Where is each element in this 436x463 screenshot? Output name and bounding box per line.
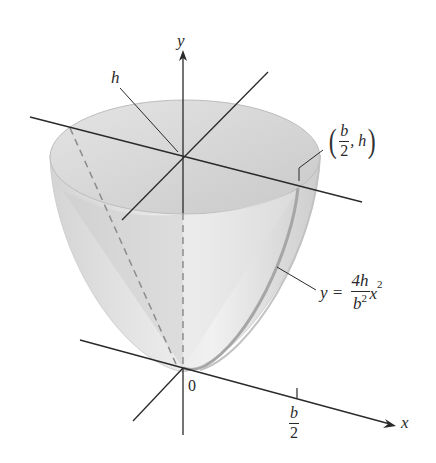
x-tick-label: b 2: [289, 405, 299, 442]
tick-numerator: b: [289, 405, 299, 422]
paraboloid-diagram: [0, 0, 436, 463]
origin-label: 0: [188, 378, 196, 394]
x-axis: [80, 340, 390, 424]
cone-shadow: [62, 190, 183, 368]
z-axis: [133, 368, 183, 421]
equation-lhs: y =: [320, 283, 343, 302]
point-denominator: 2: [339, 143, 349, 160]
equation-numerator: 4h: [351, 272, 370, 290]
tick-denominator: 2: [289, 425, 299, 442]
x-axis-arrow-icon: [383, 419, 396, 428]
equation-var: x: [370, 284, 378, 303]
equation-denominator: b2: [352, 293, 368, 313]
equation-label: y = 4h b2 x2: [320, 272, 383, 312]
point-numerator: b: [339, 123, 349, 140]
x-axis-label: x: [401, 414, 409, 431]
point-h: , h: [350, 132, 366, 149]
height-label: h: [111, 69, 120, 86]
y-axis-label: y: [177, 32, 185, 49]
point-label: ( b 2 , h): [327, 123, 378, 160]
